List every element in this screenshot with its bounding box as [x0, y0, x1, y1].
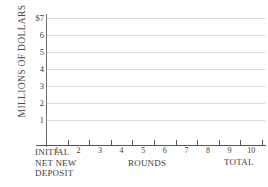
gridline	[46, 69, 265, 70]
x-axis-number-label: 9	[223, 147, 237, 155]
x-axis-number-label: 5	[136, 147, 150, 155]
x-axis-label-initial-net-new-deposit: INITIAL NET NEW DEPOSIT	[35, 147, 76, 179]
x-axis-number-label: 3	[93, 147, 107, 155]
y-axis-tick-label: 1	[24, 116, 44, 125]
plot-area	[46, 18, 265, 146]
y-axis-line	[46, 14, 47, 147]
x-axis-number-label: 7	[179, 147, 193, 155]
x-axis-tick	[89, 140, 90, 146]
y-axis-tick-label: $7	[24, 14, 44, 23]
x-axis-tick	[111, 140, 112, 146]
y-axis-tick-label: 2	[24, 99, 44, 108]
gridline	[46, 18, 265, 19]
x-axis-number-label: 6	[158, 147, 172, 155]
x-axis-tick	[46, 140, 47, 146]
gridline	[46, 52, 265, 53]
gridline	[46, 35, 265, 36]
x-axis-label-initial-line1: INITIAL	[35, 147, 76, 158]
x-axis-number-label: 4	[115, 147, 129, 155]
x-axis-tick	[240, 140, 241, 146]
x-axis-number-label: 8	[201, 147, 215, 155]
x-axis-tick	[219, 140, 220, 146]
y-axis-tick-label: 3	[24, 82, 44, 91]
x-axis-tick	[197, 140, 198, 146]
y-axis-tick-label: 6	[24, 31, 44, 40]
x-axis-tick	[132, 140, 133, 146]
gridline	[46, 86, 265, 87]
x-axis-tick	[176, 140, 177, 146]
y-axis-tick-label: 4	[24, 65, 44, 74]
x-axis-label-rounds: ROUNDS	[128, 158, 166, 168]
x-axis-tick	[262, 140, 263, 146]
x-axis-label-initial-line3: DEPOSIT	[35, 168, 76, 179]
x-axis-label-initial-line2: NET NEW	[35, 158, 76, 169]
x-axis-tick	[68, 140, 69, 146]
x-axis-tick	[154, 140, 155, 146]
y-axis-tick-label: 5	[24, 48, 44, 57]
gridline	[46, 120, 265, 121]
x-axis-label-total: TOTAL	[224, 157, 254, 167]
x-axis-number-label: 10	[244, 147, 258, 155]
blank-bar-chart: MILLIONS OF DOLLARS $7654321 12345678910…	[0, 0, 268, 187]
y-axis-tick-labels: $7654321	[22, 0, 44, 160]
gridline	[46, 103, 265, 104]
